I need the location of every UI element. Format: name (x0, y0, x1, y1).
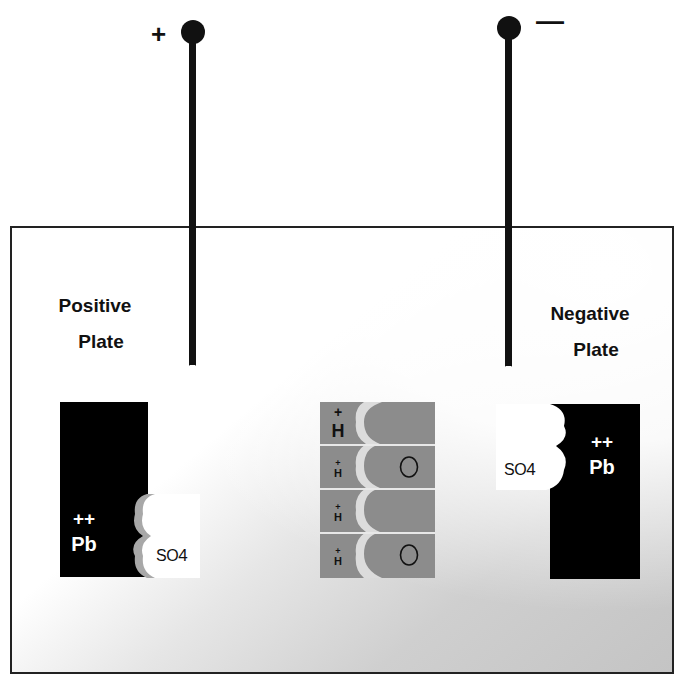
water-molecule-stack: + H + H + H + H (320, 402, 435, 578)
positive-pb-ion: Pb (66, 534, 102, 554)
negative-plate-label: Negative Plate (530, 302, 650, 362)
positive-sign: + (151, 21, 166, 47)
negative-sign: — (536, 8, 564, 34)
water-h-1: H (328, 422, 348, 440)
negative-pb-charge: ++ (584, 432, 620, 452)
negative-electrode-rod (505, 36, 512, 366)
negative-sulfate-base: SO (504, 461, 526, 478)
water-h-4: H (330, 556, 346, 567)
positive-plate-label-line1: Positive (30, 294, 160, 318)
positive-plate-label: Positive Plate (30, 294, 160, 354)
positive-rod-tip (189, 358, 196, 366)
positive-sulfate-label: SO4 (156, 546, 187, 566)
negative-plate-label-line2: Plate (530, 338, 650, 362)
water-h-2: H (330, 468, 346, 479)
positive-electrode-rod (189, 40, 196, 365)
negative-sulfate-sub: 4 (526, 460, 535, 479)
positive-sulfate-sub: 4 (178, 546, 187, 565)
negative-pb-ion: Pb (584, 457, 620, 477)
oxygen-atom-1 (398, 454, 420, 480)
positive-plate-label-line2: Plate (30, 330, 160, 354)
positive-sulfate-base: SO (156, 547, 178, 564)
water-h-charge-1: + (328, 405, 348, 419)
negative-rod-tip (505, 358, 512, 367)
water-h-3: H (330, 512, 346, 523)
oxygen-atom-2 (398, 542, 420, 568)
negative-sulfate-label: SO4 (504, 460, 535, 480)
negative-plate-label-line1: Negative (530, 302, 650, 326)
positive-pb-charge: ++ (66, 509, 102, 529)
